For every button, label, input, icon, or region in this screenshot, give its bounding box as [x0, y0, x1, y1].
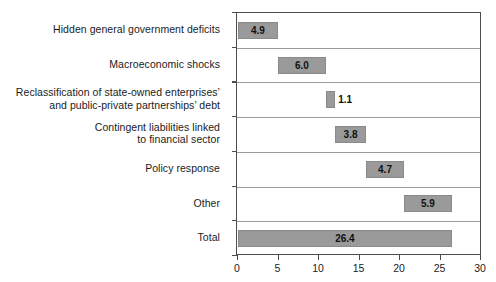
y-axis-ticks	[236, 12, 237, 255]
bar-value-label: 4.9	[238, 22, 278, 39]
x-axis-tick	[399, 255, 400, 260]
row-divider	[237, 117, 480, 118]
category-label: Hidden general government deficits	[0, 12, 220, 47]
x-axis-tick-label: 0	[234, 262, 240, 274]
category-label-line: Reclassification of state-owned enterpri…	[16, 86, 220, 99]
row-divider	[237, 82, 480, 83]
row-divider	[237, 187, 480, 188]
x-axis-tick	[480, 255, 481, 260]
category-label: Reclassification of state-owned enterpri…	[0, 81, 220, 116]
bar	[326, 91, 335, 108]
bar-value-label: 6.0	[278, 57, 327, 74]
category-label-column: Hidden general government deficitsMacroe…	[0, 12, 228, 255]
bar-value-label: 1.1	[335, 91, 352, 108]
x-axis: 051015202530	[236, 255, 481, 281]
category-label-line: to financial sector	[137, 133, 220, 146]
category-label-line: Hidden general government deficits	[53, 23, 220, 36]
category-label: Macroeconomic shocks	[0, 47, 220, 82]
category-label: Policy response	[0, 151, 220, 186]
waterfall-chart: Hidden general government deficitsMacroe…	[0, 0, 496, 282]
x-axis-tick	[237, 255, 238, 260]
x-axis-tick-label: 25	[434, 262, 446, 274]
plot-area: 4.96.01.13.84.75.926.4	[236, 12, 481, 255]
category-label-line: Macroeconomic shocks	[109, 58, 220, 71]
category-label: Other	[0, 186, 220, 221]
bar-value-label: 4.7	[366, 161, 404, 178]
row-divider	[237, 48, 480, 49]
y-axis-tick	[232, 151, 237, 152]
x-axis-tick	[359, 255, 360, 260]
bar-value-label: 26.4	[238, 230, 452, 247]
y-axis-tick	[232, 81, 237, 82]
y-axis-tick	[232, 186, 237, 187]
x-axis-tick-label: 5	[275, 262, 281, 274]
category-label: Contingent liabilities linkedto financia…	[0, 116, 220, 151]
bar-value-label: 5.9	[404, 195, 452, 212]
bar-value-label: 3.8	[335, 126, 366, 143]
category-label-line: Total	[198, 231, 220, 244]
x-axis-tick	[440, 255, 441, 260]
category-label: Total	[0, 220, 220, 255]
x-axis-tick-label: 15	[353, 262, 365, 274]
category-label-line: Policy response	[145, 162, 220, 175]
x-axis-tick	[278, 255, 279, 260]
y-axis-tick	[232, 12, 237, 13]
x-axis-tick-label: 30	[474, 262, 486, 274]
category-label-line: Other	[193, 197, 220, 210]
y-axis-tick	[232, 116, 237, 117]
x-axis-tick-label: 20	[393, 262, 405, 274]
row-divider	[237, 152, 480, 153]
x-axis-tick-label: 10	[312, 262, 324, 274]
category-label-line: Contingent liabilities linked	[95, 121, 220, 134]
y-axis-tick	[232, 47, 237, 48]
row-divider	[237, 221, 480, 222]
category-label-line: and public-private partnerships’ debt	[49, 99, 220, 112]
x-axis-tick	[318, 255, 319, 260]
y-axis-tick	[232, 220, 237, 221]
